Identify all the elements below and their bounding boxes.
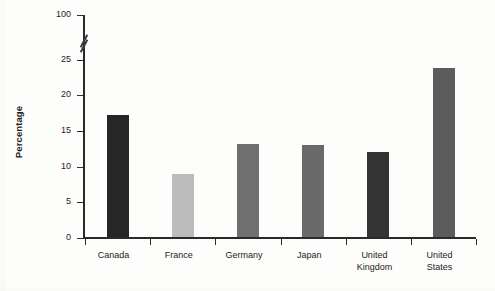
y-tick-0 (77, 238, 84, 239)
bar-france (172, 174, 194, 237)
y-tick-label-20: 20 (31, 89, 71, 99)
x-axis-line (83, 237, 476, 239)
category-label-united-kingdom: UnitedKingdom (342, 250, 407, 273)
category-label-united-states: UnitedStates (407, 250, 472, 273)
x-tick-3 (281, 239, 282, 245)
y-tick-label-10: 10 (31, 161, 71, 171)
y-tick-label-15: 15 (31, 125, 71, 135)
y-tick-25 (77, 60, 84, 61)
bar-chart: Percentage 0510152025100 CanadaFranceGer… (0, 0, 495, 291)
bar-japan (302, 145, 324, 237)
y-tick-5 (77, 202, 84, 203)
y-tick-20 (77, 95, 84, 96)
bar-canada (107, 115, 129, 237)
y-tick-label-100: 100 (31, 9, 71, 19)
bar-series (85, 15, 476, 237)
x-tick-5 (411, 239, 412, 245)
y-tick-label-0: 0 (31, 232, 71, 242)
category-label-canada: Canada (81, 250, 146, 262)
x-tick-1 (150, 239, 151, 245)
y-tick-15 (77, 131, 84, 132)
x-tick-0 (85, 239, 86, 245)
bar-united-kingdom (367, 152, 389, 237)
y-tick-100 (77, 15, 84, 16)
y-axis-title: Percentage (13, 77, 27, 187)
y-tick-10 (77, 167, 84, 168)
category-label-germany: Germany (211, 250, 276, 262)
category-label-france: France (146, 250, 211, 262)
x-tick-6 (476, 239, 477, 245)
bar-germany (237, 144, 259, 237)
category-label-japan: Japan (277, 250, 342, 262)
x-tick-2 (215, 239, 216, 245)
x-tick-4 (346, 239, 347, 245)
bar-united-states (433, 68, 455, 237)
y-tick-label-25: 25 (31, 54, 71, 64)
y-tick-label-5: 5 (31, 196, 71, 206)
